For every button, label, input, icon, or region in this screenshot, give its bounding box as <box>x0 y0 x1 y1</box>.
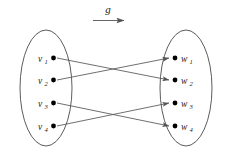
node-sub-v1: 1 <box>44 58 47 65</box>
node-label-w2: w <box>181 76 188 86</box>
node-label-v4: v <box>38 122 43 132</box>
mapping-arrow-group: g <box>93 3 124 21</box>
node-dot-v3 <box>51 101 56 106</box>
node-dot-w1 <box>173 56 178 61</box>
node-sub-v3: 3 <box>43 103 48 110</box>
node-sub-w2: 2 <box>190 80 194 87</box>
function-mapping-diagram: g v 1 v 2 v 3 v 4 <box>0 0 226 157</box>
node-sub-w3: 3 <box>189 103 194 110</box>
node-label-v3: v <box>38 99 43 109</box>
node-label-w1: w <box>181 54 188 64</box>
node-label-w4: w <box>181 122 188 132</box>
node-label-v2: v <box>38 76 43 86</box>
node-dot-v4 <box>51 124 56 129</box>
node-sub-v4: 4 <box>44 126 48 133</box>
node-dot-w4 <box>173 124 178 129</box>
node-sub-w4: 4 <box>190 126 194 133</box>
node-dot-v2 <box>51 78 56 83</box>
node-sub-v2: 2 <box>44 80 48 87</box>
node-dot-v1 <box>51 56 56 61</box>
edge-group <box>57 58 169 126</box>
node-label-w3: w <box>181 99 188 109</box>
codomain-nodes: w 1 w 2 w 3 w 4 <box>173 54 194 134</box>
node-label-v1: v <box>38 54 43 64</box>
node-sub-w1: 1 <box>190 58 193 65</box>
node-dot-w2 <box>173 78 178 83</box>
node-dot-w3 <box>173 101 178 106</box>
mapping-label: g <box>105 3 111 15</box>
domain-nodes: v 1 v 2 v 3 v 4 <box>38 54 56 134</box>
